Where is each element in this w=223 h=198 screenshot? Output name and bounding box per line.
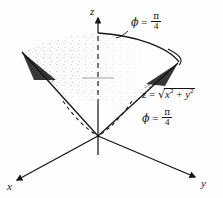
four-denominator-top: 4 (151, 22, 161, 31)
z-axis-label: z (90, 6, 94, 17)
phi-bottom-label: ϕ = π 4 (142, 108, 173, 128)
y-axis (98, 136, 195, 177)
equals-sign-equation: = (149, 88, 155, 100)
plus-sign: + (176, 88, 182, 100)
four-denominator-bottom: 4 (162, 118, 172, 127)
cone-equation-label: z = √x2 + y2 (142, 88, 195, 100)
radicand-x-exponent: 2 (170, 87, 174, 95)
radicand: x2 + y2 (164, 88, 195, 100)
y-axis-label: y (201, 178, 206, 189)
equals-sign-bottom: = (152, 112, 158, 124)
z-variable: z (142, 88, 146, 100)
pi-over-four-top: π 4 (151, 12, 161, 32)
phi-top-label: ϕ = π 4 (131, 12, 162, 32)
equals-sign-top: = (141, 16, 147, 28)
pi-over-four-bottom: π 4 (162, 108, 172, 128)
phi-symbol-bottom: ϕ (142, 112, 150, 125)
x-axis (17, 136, 98, 180)
cone-figure: z x y ϕ = π 4 z = √x2 + y2 ϕ = π 4 (0, 0, 223, 198)
phi-symbol-top: ϕ (131, 16, 139, 29)
x-axis-label: x (7, 181, 12, 192)
square-root: √x2 + y2 (158, 88, 195, 100)
radicand-y-exponent: 2 (190, 87, 194, 95)
